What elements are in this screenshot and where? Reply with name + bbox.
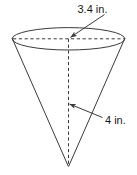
diameter-label: 3.4 in. [78, 3, 108, 15]
cone-right-slant-line [69, 38, 125, 166]
height-leader-line [70, 104, 103, 118]
height-label: 4 in. [105, 114, 126, 126]
diameter-leader-line [71, 15, 105, 38]
cone-left-slant-line [12, 38, 68, 166]
cone-diagram-svg: 3.4 in. 4 in. [0, 0, 137, 175]
cone-figure: 3.4 in. 4 in. [0, 0, 137, 175]
